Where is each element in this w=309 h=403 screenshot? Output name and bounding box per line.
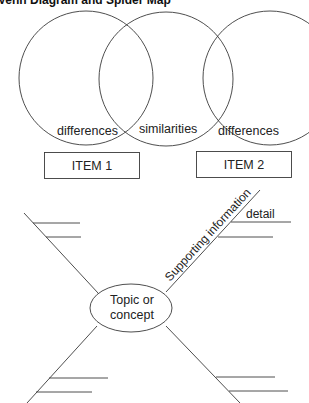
spider-leg-top-right [166, 190, 260, 292]
spider-map [24, 190, 291, 403]
diagram-canvas: differences similarities differences ITE… [0, 0, 309, 403]
left-differences-label: differences [57, 124, 118, 138]
spider-leg-bottom-left [27, 326, 97, 403]
spider-leg-bottom-right [166, 326, 240, 403]
right-differences-label: differences [218, 124, 279, 138]
item1-label: ITEM 1 [72, 159, 112, 173]
similarities-label: similarities [139, 122, 197, 136]
spider-leg-top-left [24, 213, 98, 293]
supporting-information-label: Supporting information [162, 186, 254, 284]
topic-label-line2: concept [110, 308, 154, 322]
topic-label-line1: Topic or [110, 293, 154, 307]
item2-label: ITEM 2 [224, 158, 264, 172]
detail-label: detail [246, 207, 275, 221]
